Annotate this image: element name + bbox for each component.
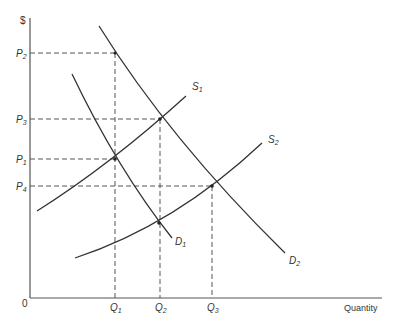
price-label-p1: P1 (16, 154, 27, 166)
supply-curve-s1 (37, 96, 186, 211)
curve-label-s1: S1 (192, 81, 203, 93)
diagram-canvas: $ 0 Quantity P2 P3 P1 P4 Q1 Q2 Q3 S1 S2 … (0, 0, 397, 323)
quantity-label-q2: Q2 (155, 302, 167, 314)
quantity-label-q1: Q1 (110, 302, 122, 314)
equilibrium-points (113, 52, 214, 225)
price-label-p2: P2 (16, 48, 27, 60)
curve-label-d2: D2 (289, 255, 300, 267)
quantity-label-q3: Q3 (207, 302, 219, 314)
demand-curve-d1 (72, 74, 172, 238)
supply-demand-diagram: $ 0 Quantity P2 P3 P1 P4 Q1 Q2 Q3 S1 S2 … (0, 0, 397, 323)
price-label-p3: P3 (16, 114, 27, 126)
guide-lines (30, 53, 212, 298)
curve-label-s2: S2 (268, 134, 279, 146)
price-label-p4: P4 (16, 181, 27, 193)
origin-label: 0 (22, 298, 28, 309)
curve-label-d1: D1 (175, 236, 186, 248)
demand-curve-d2 (99, 26, 285, 253)
x-axis-label: Quantity (344, 303, 378, 313)
y-axis-label: $ (20, 15, 26, 26)
